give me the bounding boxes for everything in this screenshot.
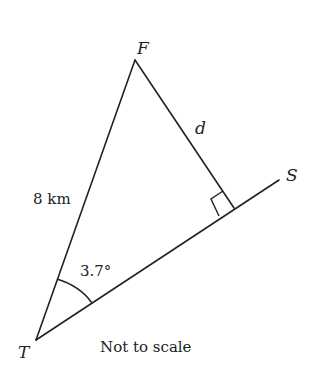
side-label-tf: 8 km xyxy=(33,190,71,208)
vertex-label-t: T xyxy=(18,342,31,362)
right-angle-marker xyxy=(211,191,223,216)
angle-label-t: 3.7° xyxy=(80,262,111,280)
side-d xyxy=(135,60,234,208)
line-ts xyxy=(36,180,279,340)
vertex-label-s: S xyxy=(286,165,298,185)
vertex-label-f: F xyxy=(136,38,150,58)
angle-arc-t xyxy=(57,279,92,303)
side-label-d: d xyxy=(195,118,206,138)
triangle-diagram: F d S 8 km 3.7° T Not to scale xyxy=(0,0,313,381)
note-not-to-scale: Not to scale xyxy=(100,338,192,356)
diagram-canvas: F d S 8 km 3.7° T Not to scale xyxy=(0,0,313,381)
